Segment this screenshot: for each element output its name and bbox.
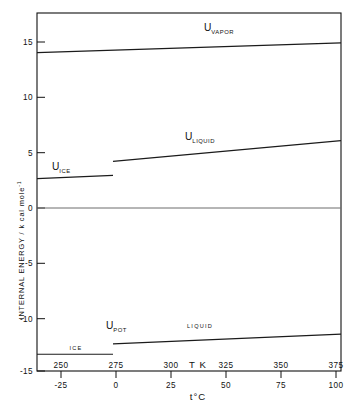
x-tick-label-kelvin: 375 — [329, 361, 344, 370]
x-tick-label-celsius: 75 — [276, 381, 286, 390]
x-tick-label-celsius: 25 — [166, 381, 176, 390]
x-tick-label-celsius: 0 — [114, 381, 119, 390]
series-label-u-vapor: UVAPOR — [204, 22, 234, 35]
svg-text:UICE: UICE — [52, 161, 71, 174]
y-axis-title-exponent: -1 — [16, 181, 22, 187]
series-label-u-pot: UPOT — [106, 320, 127, 333]
svg-text:UPOT: UPOT — [106, 320, 127, 333]
x-tick-label-kelvin: 250 — [54, 361, 69, 370]
series-label-u-ice: UICE — [52, 161, 71, 174]
series-label-subscript: LIQUID — [192, 138, 215, 144]
x-tick-label-kelvin: 350 — [274, 361, 289, 370]
svg-text:ULIQUID: ULIQUID — [185, 131, 215, 144]
y-tick-label: 10 — [23, 93, 33, 102]
chart-canvas: 15 10 5 0 -5 -10 -15 INTERNAL ENERGY / k… — [0, 0, 359, 404]
series-label-main: U — [204, 22, 211, 33]
x-axis-title-celsius: t°C — [190, 391, 207, 402]
x-tick-label-kelvin: 300 — [164, 361, 179, 370]
x-axis-title-kelvin: T K — [189, 359, 207, 370]
series-label-main: U — [106, 320, 113, 331]
x-axis-celsius-labels: -25 0 25 50 75 100 — [54, 381, 343, 390]
y-tick-label: 0 — [28, 204, 33, 213]
x-tick-label-kelvin: 325 — [219, 361, 234, 370]
liquid-phase-annotation: LIQUID — [187, 323, 213, 329]
x-tick-label-celsius: -25 — [54, 381, 67, 390]
svg-text:INTERNAL ENERGY / k cal mole-1: INTERNAL ENERGY / k cal mole-1 — [16, 181, 26, 320]
series-line-u-pot — [113, 334, 341, 344]
x-tick-label-celsius: 50 — [221, 381, 231, 390]
series-label-main: U — [185, 131, 192, 142]
x-axis-kelvin-ticks — [61, 371, 336, 378]
series-label-subscript: ICE — [59, 168, 70, 174]
series-label-subscript: VAPOR — [211, 29, 234, 35]
ice-phase-annotation: ICE — [70, 345, 83, 351]
x-tick-label-kelvin: 275 — [109, 361, 124, 370]
y-axis-title-text: INTERNAL ENERGY / k cal mole — [17, 187, 26, 320]
x-tick-label-celsius: 100 — [329, 381, 344, 390]
y-axis-ticks — [37, 42, 45, 371]
plot-frame — [37, 13, 341, 371]
series-label-subscript: POT — [113, 327, 127, 333]
y-tick-label: 5 — [28, 149, 33, 158]
series-line-u-liquid — [113, 141, 341, 162]
y-tick-label: 15 — [23, 38, 33, 47]
y-tick-label: -15 — [20, 367, 33, 376]
internal-energy-chart: 15 10 5 0 -5 -10 -15 INTERNAL ENERGY / k… — [0, 0, 359, 404]
y-tick-label: -5 — [25, 259, 33, 268]
series-line-u-vapor — [37, 43, 341, 53]
y-axis-title: INTERNAL ENERGY / k cal mole-1 — [16, 181, 26, 320]
series-line-u-ice — [37, 175, 113, 178]
series-label-main: U — [52, 161, 59, 172]
series-label-u-liquid: ULIQUID — [185, 131, 215, 144]
svg-text:UVAPOR: UVAPOR — [204, 22, 234, 35]
